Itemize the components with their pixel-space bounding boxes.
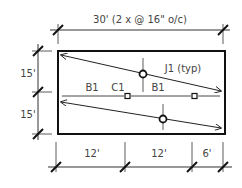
beam-label-1: B1 (85, 82, 98, 93)
framing-plan-diagram: 30' (2 x @ 16" o/c) 15' 15' B1 C1 B1 J1 … (0, 0, 242, 188)
left-dimension-label-2: 15' (20, 109, 35, 120)
bottom-dimension-label-1: 12' (84, 148, 99, 159)
joist-connection-icon (160, 116, 167, 123)
joist-lower (61, 102, 221, 130)
top-dimension: 30' (2 x @ 16" o/c) (50, 14, 230, 44)
column-marker (192, 94, 197, 99)
bottom-dimension-label-3: 6' (202, 148, 211, 159)
left-dimension: 15' 15' (20, 44, 52, 140)
left-dimension-label-1: 15' (20, 68, 35, 79)
column-label: C1 (111, 82, 124, 93)
bottom-dimension: 12' 12' 6' (48, 142, 232, 172)
column-marker (125, 94, 130, 99)
top-dimension-label: 30' (2 x @ 16" o/c) (93, 14, 187, 25)
joist-label: J1 (typ) (164, 63, 202, 74)
bottom-dimension-label-2: 12' (151, 148, 166, 159)
beam-line: B1 C1 B1 (62, 82, 220, 99)
joist-connection-icon (140, 71, 147, 78)
beam-label-2: B1 (151, 82, 164, 93)
